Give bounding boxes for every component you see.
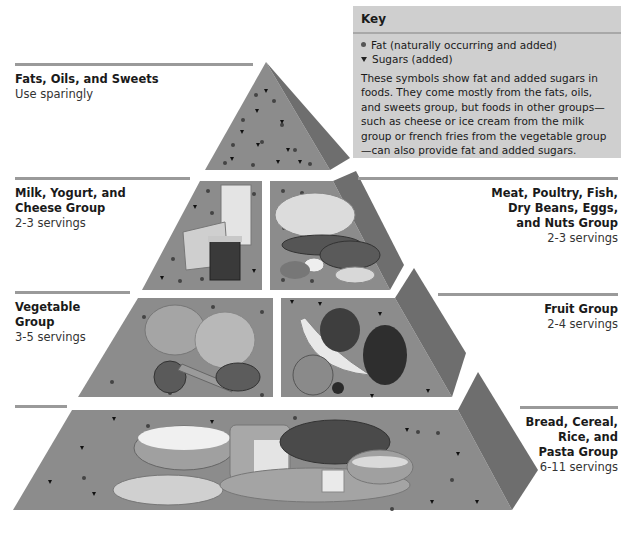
tier-title: Meat, Poultry, Fish, Dry Beans, Eggs, an… — [491, 186, 618, 231]
tier-subtitle: 2-4 servings — [544, 317, 618, 332]
tier-subtitle: Use sparingly — [15, 87, 159, 102]
rule-bread-right — [520, 406, 618, 409]
key-item-label: Sugars (added) — [372, 52, 453, 67]
tier-title: Vegetable Group — [15, 300, 86, 330]
fat-dot-icon — [361, 42, 366, 47]
rule-bread — [15, 405, 67, 408]
label-bread-group: Bread, Cereal, Rice, and Pasta Group 6-1… — [526, 415, 618, 475]
tier-title: Fats, Oils, and Sweets — [15, 72, 159, 87]
label-fats-oils-sweets: Fats, Oils, and Sweets Use sparingly — [15, 72, 159, 102]
tier-title: Milk, Yogurt, and Cheese Group — [15, 186, 126, 216]
key-item-sugars: Sugars (added) — [361, 52, 613, 67]
tier-subtitle: 2-3 servings — [15, 216, 126, 231]
label-meat-group: Meat, Poultry, Fish, Dry Beans, Eggs, an… — [491, 186, 618, 246]
label-vegetable-group: Vegetable Group 3-5 servings — [15, 300, 86, 345]
rule-vegetable — [15, 291, 130, 294]
sugar-triangle-icon — [361, 57, 367, 62]
label-fruit-group: Fruit Group 2-4 servings — [544, 302, 618, 332]
key-item-label: Fat (naturally occurring and added) — [371, 38, 557, 53]
rule-fruit — [438, 293, 618, 296]
rule-fats — [15, 63, 253, 66]
rule-meat — [358, 177, 618, 180]
tier-subtitle: 6-11 servings — [526, 460, 618, 475]
label-milk-group: Milk, Yogurt, and Cheese Group 2-3 servi… — [15, 186, 126, 231]
tier-title: Fruit Group — [544, 302, 618, 317]
key-item-fat: Fat (naturally occurring and added) — [361, 38, 613, 53]
key-title: Key — [353, 6, 621, 34]
tier-title: Bread, Cereal, Rice, and Pasta Group — [526, 415, 618, 460]
tier-subtitle: 3-5 servings — [15, 330, 86, 345]
tier-subtitle: 2-3 servings — [491, 231, 618, 246]
key-legend: Key Fat (naturally occurring and added) … — [353, 6, 621, 158]
bread-food-illustration — [113, 420, 413, 505]
key-description: These symbols show fat and added sugars … — [361, 71, 613, 158]
rule-milk — [15, 177, 190, 180]
